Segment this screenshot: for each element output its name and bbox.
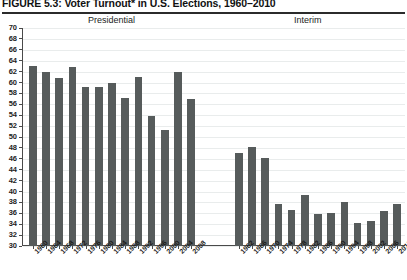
- y-axis-tick-mark: [19, 202, 22, 203]
- bar-group[interactable]: [380, 28, 388, 246]
- bar[interactable]: [95, 87, 103, 246]
- bar-group[interactable]: [314, 28, 322, 246]
- figure-title: FIGURE 5.3: Voter Turnout* in U.S. Elect…: [2, 0, 405, 9]
- y-axis-tick: 44: [0, 165, 22, 175]
- y-axis-tick-mark: [19, 191, 22, 192]
- bar[interactable]: [82, 87, 90, 246]
- y-axis-tick-label: 44: [9, 165, 17, 175]
- y-axis-tick-mark: [19, 213, 22, 214]
- bar-group[interactable]: [393, 28, 401, 246]
- y-axis-tick-label: 50: [9, 132, 17, 142]
- bar[interactable]: [108, 83, 116, 246]
- y-axis-tick-label: 48: [9, 143, 17, 153]
- bar-group[interactable]: [121, 28, 129, 246]
- y-axis-tick: 30: [0, 241, 22, 251]
- bar-group[interactable]: [95, 28, 103, 246]
- bar[interactable]: [42, 72, 50, 246]
- y-axis-tick-label: 34: [9, 219, 17, 229]
- bar-group[interactable]: [161, 28, 169, 246]
- y-axis-tick: 34: [0, 219, 22, 229]
- y-axis-tick-label: 60: [9, 78, 17, 88]
- y-axis-tick-mark: [19, 60, 22, 61]
- bar-group[interactable]: [275, 28, 283, 246]
- bar[interactable]: [174, 72, 182, 246]
- y-axis-tick-mark: [19, 115, 22, 116]
- bar-group[interactable]: [367, 28, 375, 246]
- y-axis-tick-mark: [19, 158, 22, 159]
- figure-container: FIGURE 5.3: Voter Turnout* in U.S. Elect…: [0, 0, 407, 280]
- bar-group[interactable]: [174, 28, 182, 246]
- bar-group[interactable]: [29, 28, 37, 246]
- y-axis-tick: 36: [0, 208, 22, 218]
- bar[interactable]: [121, 98, 129, 246]
- y-axis-tick-label: 56: [9, 99, 17, 109]
- bar-group[interactable]: [354, 28, 362, 246]
- y-axis-tick-label: 30: [9, 241, 17, 251]
- y-axis-tick: 60: [0, 78, 22, 88]
- y-axis-tick: 66: [0, 45, 22, 55]
- bar-group[interactable]: [148, 28, 156, 246]
- y-axis-tick-mark: [19, 137, 22, 138]
- y-axis-tick: 48: [0, 143, 22, 153]
- y-axis-tick: 62: [0, 67, 22, 77]
- y-axis-tick-label: 46: [9, 154, 17, 164]
- y-axis-tick: 50: [0, 132, 22, 142]
- bar[interactable]: [29, 66, 37, 246]
- y-axis-tick: 32: [0, 230, 22, 240]
- title-divider: [2, 12, 405, 14]
- y-axis-tick-mark: [19, 28, 22, 29]
- bar-group[interactable]: [341, 28, 349, 246]
- y-axis-tick-mark: [19, 235, 22, 236]
- y-axis-tick-label: 68: [9, 34, 17, 44]
- y-axis-tick: 56: [0, 99, 22, 109]
- bar-group[interactable]: [135, 28, 143, 246]
- bar-group[interactable]: [55, 28, 63, 246]
- bar[interactable]: [261, 158, 269, 246]
- y-axis-tick-label: 42: [9, 176, 17, 186]
- y-axis-tick: 68: [0, 34, 22, 44]
- bar[interactable]: [161, 130, 169, 246]
- y-axis-tick-mark: [19, 82, 22, 83]
- y-axis-tick-label: 58: [9, 88, 17, 98]
- bar-group[interactable]: [288, 28, 296, 246]
- bar-group[interactable]: [42, 28, 50, 246]
- y-axis-tick-mark: [19, 104, 22, 105]
- section-label-interim: Interim: [294, 15, 322, 25]
- bar[interactable]: [187, 99, 195, 246]
- bar-series: [23, 28, 405, 246]
- y-axis-tick-mark: [19, 38, 22, 39]
- section-label-presidential: Presidential: [88, 15, 135, 25]
- y-axis-tick-mark: [19, 71, 22, 72]
- y-axis-tick-label: 52: [9, 121, 17, 131]
- bar-group[interactable]: [248, 28, 256, 246]
- y-axis-tick-label: 54: [9, 110, 17, 120]
- bar[interactable]: [235, 153, 243, 246]
- y-axis-tick-label: 38: [9, 197, 17, 207]
- y-axis-tick: 40: [0, 187, 22, 197]
- y-axis-tick-label: 64: [9, 56, 17, 66]
- bar-group[interactable]: [261, 28, 269, 246]
- y-axis-tick-label: 32: [9, 230, 17, 240]
- y-axis-tick-label: 70: [9, 23, 17, 33]
- y-axis-tick-mark: [19, 224, 22, 225]
- bar-group[interactable]: [108, 28, 116, 246]
- y-axis-tick: 54: [0, 110, 22, 120]
- bar[interactable]: [55, 78, 63, 246]
- bar-group[interactable]: [82, 28, 90, 246]
- bar-group[interactable]: [301, 28, 309, 246]
- bar[interactable]: [135, 77, 143, 246]
- y-axis-tick: 38: [0, 197, 22, 207]
- bar[interactable]: [148, 116, 156, 246]
- y-axis-tick-mark: [19, 246, 22, 247]
- y-axis-tick-label: 36: [9, 208, 17, 218]
- bar-group[interactable]: [69, 28, 77, 246]
- y-axis-tick-mark: [19, 126, 22, 127]
- y-axis-tick-mark: [19, 180, 22, 181]
- bar[interactable]: [248, 147, 256, 246]
- bar-group[interactable]: [235, 28, 243, 246]
- bar[interactable]: [69, 67, 77, 246]
- bar-group[interactable]: [187, 28, 195, 246]
- y-axis-tick-mark: [19, 169, 22, 170]
- bar-group[interactable]: [327, 28, 335, 246]
- y-axis-tick: 46: [0, 154, 22, 164]
